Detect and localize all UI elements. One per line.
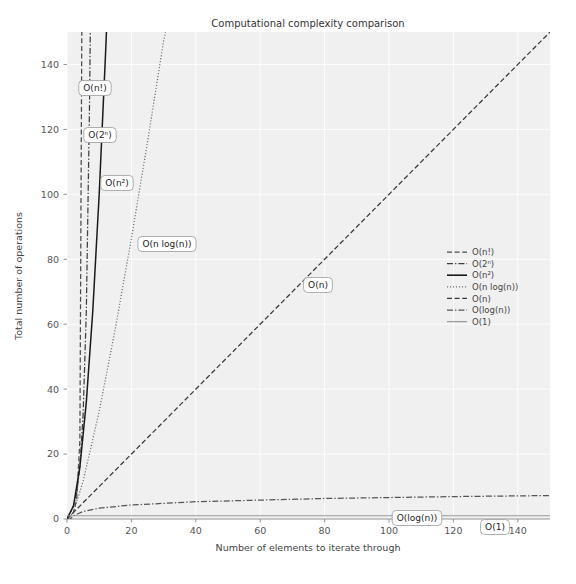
curve-annotation-text: O(1) bbox=[485, 522, 505, 532]
figure-container: 020406080100120140 020406080100120140 Co… bbox=[0, 0, 576, 584]
x-tick-label: 0 bbox=[64, 525, 70, 536]
curve-annotation-0: O(n!) bbox=[79, 81, 111, 96]
x-axis-label: Number of elements to iterate through bbox=[216, 542, 401, 553]
curve-annotation-4: O(n) bbox=[304, 278, 333, 293]
complexity-chart: 020406080100120140 020406080100120140 Co… bbox=[0, 0, 576, 584]
chart-title: Computational complexity comparison bbox=[211, 18, 404, 29]
y-tick-label: 140 bbox=[41, 59, 59, 70]
legend-label-6: O(1) bbox=[472, 317, 491, 327]
legend-label-3: O(n log(n)) bbox=[472, 282, 518, 292]
y-tick-label: 40 bbox=[47, 384, 59, 395]
y-tick-label: 20 bbox=[47, 448, 59, 459]
legend-label-1: O(2ⁿ) bbox=[472, 259, 494, 269]
x-tick-label: 100 bbox=[380, 525, 398, 536]
curve-annotation-2: O(n²) bbox=[101, 176, 133, 191]
curve-annotation-text: O(n²) bbox=[105, 178, 128, 188]
x-tick-label: 120 bbox=[444, 525, 462, 536]
y-tick-label: 120 bbox=[41, 124, 59, 135]
x-tick-label: 80 bbox=[319, 525, 331, 536]
y-tick-label: 60 bbox=[47, 319, 59, 330]
legend-label-4: O(n) bbox=[472, 294, 491, 304]
x-tick-label: 140 bbox=[509, 525, 527, 536]
curve-annotation-6: O(1) bbox=[481, 520, 510, 535]
curve-annotation-text: O(n) bbox=[308, 280, 328, 290]
curve-annotation-1: O(2ⁿ) bbox=[84, 128, 116, 143]
curve-annotation-text: O(log(n)) bbox=[397, 513, 438, 523]
y-tick-label: 0 bbox=[53, 513, 59, 524]
y-tick-label: 100 bbox=[41, 189, 59, 200]
legend-label-2: O(n²) bbox=[472, 270, 494, 280]
x-tick-label: 20 bbox=[125, 525, 137, 536]
x-tick-label: 40 bbox=[190, 525, 202, 536]
curve-annotation-5: O(log(n)) bbox=[392, 511, 442, 526]
legend-label-0: O(n!) bbox=[472, 247, 494, 257]
curve-annotation-3: O(n log(n)) bbox=[138, 237, 196, 252]
legend-label-5: O(log(n)) bbox=[472, 305, 510, 315]
x-tick-label: 60 bbox=[254, 525, 266, 536]
curve-annotation-text: O(n!) bbox=[83, 83, 106, 93]
y-tick-label: 80 bbox=[47, 254, 59, 265]
y-axis-label: Total number of operations bbox=[13, 212, 24, 341]
curve-annotation-text: O(n log(n)) bbox=[142, 239, 191, 249]
curve-annotation-text: O(2ⁿ) bbox=[88, 130, 111, 140]
